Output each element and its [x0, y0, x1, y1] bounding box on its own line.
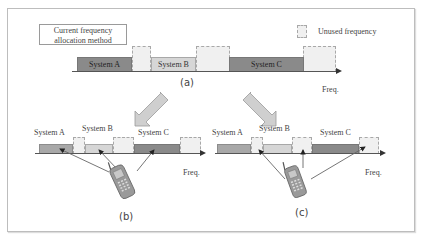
signal-overlay	[0, 0, 422, 239]
signal-lines-b	[60, 149, 154, 172]
signal-lines-c	[259, 147, 365, 179]
mobile-phone-icon	[106, 157, 136, 200]
